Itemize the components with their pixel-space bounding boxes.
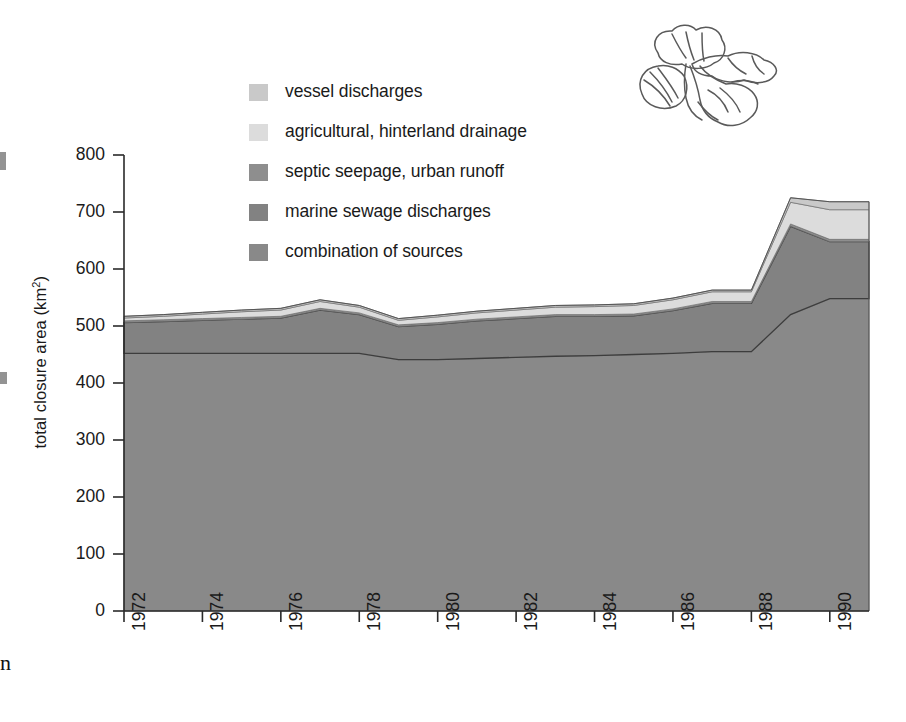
y-tick-label-400: 400	[45, 374, 105, 392]
y-tick-label-600: 600	[45, 260, 105, 278]
stacked-area-group	[124, 198, 869, 611]
x-tick-label-1984: 1984	[602, 592, 620, 631]
x-tick-label-1976: 1976	[288, 592, 306, 631]
y-axis-ticks	[113, 155, 124, 611]
y-tick-label-500: 500	[45, 317, 105, 335]
x-tick-label-1988: 1988	[758, 592, 776, 631]
figure-container: n total closure area (km2)	[0, 0, 906, 722]
y-tick-label-300: 300	[45, 431, 105, 449]
x-tick-label-1986: 1986	[680, 592, 698, 631]
x-tick-label-1980: 1980	[445, 592, 463, 631]
x-tick-label-1978: 1978	[366, 592, 384, 631]
y-tick-label-200: 200	[45, 488, 105, 506]
x-tick-label-1972: 1972	[131, 592, 149, 631]
x-axis-ticks	[124, 611, 830, 622]
y-tick-label-100: 100	[45, 545, 105, 563]
y-tick-label-0: 0	[45, 602, 105, 620]
area-series-marine-sewage-discharges	[124, 226, 869, 359]
x-tick-label-1990: 1990	[837, 592, 855, 631]
x-tick-label-1974: 1974	[209, 592, 227, 631]
x-tick-label-1982: 1982	[523, 592, 541, 631]
y-tick-label-700: 700	[45, 203, 105, 221]
y-tick-label-800: 800	[45, 146, 105, 164]
